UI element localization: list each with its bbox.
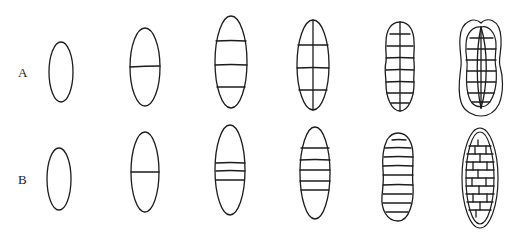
diagram-stage: A B bbox=[0, 0, 522, 233]
spore-a4 bbox=[297, 20, 329, 110]
spore-b4 bbox=[300, 127, 330, 219]
spore-b3 bbox=[215, 125, 245, 215]
spore-a1 bbox=[49, 42, 73, 102]
spore-a3 bbox=[215, 16, 247, 108]
spore-diagram bbox=[0, 0, 522, 233]
spore-b1 bbox=[47, 148, 71, 210]
spore-b6 bbox=[462, 128, 498, 228]
spore-b2 bbox=[131, 132, 159, 212]
spore-b5 bbox=[382, 133, 413, 221]
spore-a5 bbox=[385, 22, 414, 111]
spore-a2 bbox=[130, 28, 160, 106]
spore-a6 bbox=[459, 20, 503, 116]
